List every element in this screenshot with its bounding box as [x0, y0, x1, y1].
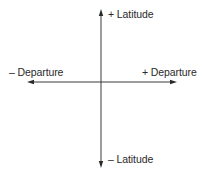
positive-latitude-label: + Latitude: [108, 8, 153, 20]
north-arrowhead-icon: [99, 9, 103, 16]
axes-graphic: [0, 0, 204, 177]
west-arrowhead-icon: [27, 80, 34, 84]
positive-departure-label: + Departure: [142, 66, 197, 78]
east-arrowhead-icon: [170, 80, 177, 84]
negative-departure-label: – Departure: [9, 66, 63, 78]
latitude-departure-diagram: + Latitude – Departure + Departure – Lat…: [0, 0, 204, 177]
negative-latitude-label: – Latitude: [108, 153, 153, 165]
south-arrowhead-icon: [99, 161, 103, 168]
